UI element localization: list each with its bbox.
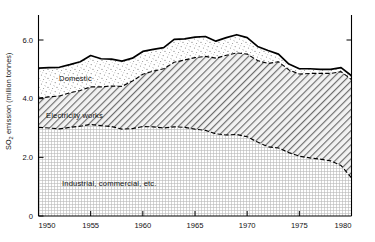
y-tick-label: 6.0 bbox=[22, 36, 33, 45]
x-tick-label: 1960 bbox=[134, 221, 151, 230]
band-label-electricity-works: Electricity works bbox=[46, 111, 103, 120]
y-tick-label: 4.0 bbox=[22, 94, 33, 103]
so2-emission-stacked-area-chart: 02.04.06.0 1950195519601965197019751980 … bbox=[0, 0, 375, 242]
y-tick-label: 2.0 bbox=[22, 153, 33, 162]
x-tick-label: 1965 bbox=[187, 221, 204, 230]
x-tick-label: 1955 bbox=[82, 221, 99, 230]
y-axis-title-prefix: SO bbox=[4, 139, 13, 150]
x-tick-label: 1970 bbox=[239, 221, 256, 230]
svg-text:SO2 emission (million tonnes): SO2 emission (million tonnes) bbox=[4, 53, 14, 151]
band-label-industrial-commercial-etc: Industrial, commercial, etc. bbox=[62, 179, 157, 188]
x-tick-label: 1975 bbox=[291, 221, 308, 230]
x-tick-label: 1950 bbox=[39, 221, 56, 230]
x-tick-label: 1980 bbox=[335, 221, 352, 230]
y-axis-title-suffix: emission (million tonnes) bbox=[4, 53, 13, 137]
y-tick-label: 0 bbox=[29, 212, 33, 221]
band-label-domestic: Domestic bbox=[59, 74, 92, 83]
chart-canvas: 02.04.06.0 1950195519601965197019751980 … bbox=[0, 0, 375, 242]
y-axis-title: SO2 emission (million tonnes) bbox=[4, 53, 14, 151]
